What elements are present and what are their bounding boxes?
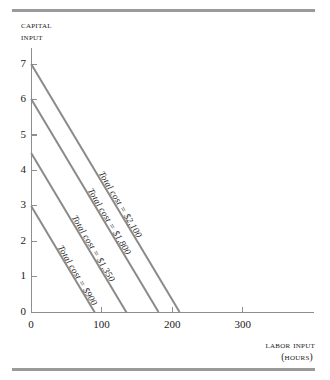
y-axis-tick-label-0: 0	[6, 305, 26, 317]
y-axis-tick-2	[32, 241, 37, 242]
x-axis-tick-300	[242, 307, 243, 312]
x-axis-line	[31, 312, 314, 313]
x-axis-tick-label-0: 0	[11, 318, 51, 330]
y-axis-tick-label-4: 4	[6, 163, 26, 175]
y-axis-tick-4	[32, 170, 37, 171]
y-axis-tick-5	[32, 134, 37, 135]
y-axis-tick-label-6: 6	[6, 92, 26, 104]
isocost-chart-figure: Capital input Labor input (hours) 012345…	[0, 0, 330, 380]
y-axis-tick-1	[32, 276, 37, 277]
y-axis-title-line2: input	[21, 32, 52, 44]
x-axis-tick-100	[101, 307, 102, 312]
y-axis-line	[31, 48, 32, 313]
y-axis-tick-label-2: 2	[6, 234, 26, 246]
x-axis-tick-label-300: 300	[223, 318, 263, 330]
x-axis-tick-200	[172, 307, 173, 312]
y-axis-tick-label-5: 5	[6, 128, 26, 140]
y-axis-tick-label-3: 3	[6, 198, 26, 210]
y-axis-title: Capital input	[21, 20, 52, 43]
x-axis-tick-label-200: 200	[152, 318, 192, 330]
x-axis-title: Labor input (hours)	[215, 340, 315, 363]
y-axis-tick-label-7: 7	[6, 57, 26, 69]
y-axis-tick-label-1: 1	[6, 269, 26, 281]
y-axis-title-line1: Capital	[21, 20, 52, 32]
x-axis-title-line2: (hours)	[215, 352, 315, 364]
x-axis-tick-label-100: 100	[82, 318, 122, 330]
x-axis-title-line1: Labor input	[215, 340, 315, 352]
